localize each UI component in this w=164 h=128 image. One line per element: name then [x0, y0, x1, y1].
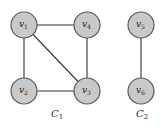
nodes-layer: v1v4v2v3v5v6: [11, 12, 154, 104]
graph-diagram: v1v4v2v3v5v6 C1 C2: [0, 0, 164, 128]
node-v2: v2: [11, 78, 37, 104]
component-label-c1: C1: [51, 108, 63, 121]
component-label-c2: C2: [136, 108, 148, 121]
component-labels: C1 C2: [51, 108, 148, 121]
node-v1: v1: [11, 12, 37, 38]
node-v4: v4: [74, 12, 100, 38]
node-v5: v5: [128, 12, 154, 38]
node-v6: v6: [128, 78, 154, 104]
node-v3: v3: [74, 78, 100, 104]
edge-v1-v3: [24, 25, 87, 91]
